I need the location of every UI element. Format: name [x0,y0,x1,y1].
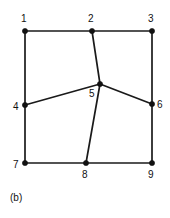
mesh-node-label-8: 8 [82,170,88,180]
mesh-node-label-9: 9 [148,170,154,180]
mesh-node-8 [83,160,88,165]
mesh-node-6 [149,101,154,106]
mesh-node-label-7: 7 [13,160,19,170]
mesh-diagram [0,0,170,218]
mesh-node-label-1: 1 [21,14,27,24]
figure-panel: 123456789 (b) [0,0,170,218]
mesh-node-3 [149,28,154,33]
mesh-node-5 [97,81,102,86]
mesh-edge-2-5 [92,31,100,84]
mesh-edge-5-6 [100,84,152,104]
figure-caption: (b) [10,192,22,203]
mesh-node-1 [22,28,27,33]
mesh-node-4 [22,102,27,107]
mesh-node-2 [89,28,94,33]
mesh-node-label-2: 2 [88,14,94,24]
mesh-node-label-5: 5 [89,89,95,99]
mesh-node-7 [22,160,27,165]
mesh-node-label-6: 6 [157,100,163,110]
mesh-node-9 [149,160,154,165]
mesh-node-label-4: 4 [13,102,19,112]
mesh-node-label-3: 3 [148,14,154,24]
